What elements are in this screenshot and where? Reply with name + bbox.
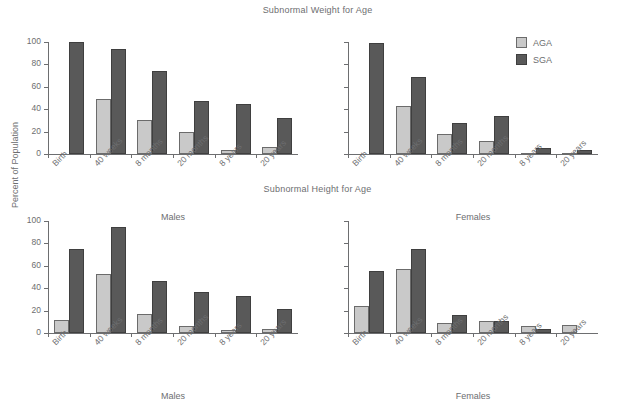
bar-sga — [69, 249, 84, 333]
x-axis-tick — [173, 333, 174, 337]
y-axis-tick — [344, 288, 348, 289]
x-axis-tick — [473, 333, 474, 337]
x-axis-tick — [215, 333, 216, 337]
y-axis-tick — [344, 243, 348, 244]
plot-area — [348, 42, 598, 154]
y-axis-tick — [44, 42, 48, 43]
y-axis-tick — [344, 109, 348, 110]
y-axis-tick — [344, 42, 348, 43]
x-axis-tick — [256, 154, 257, 158]
x-axis-tick — [215, 154, 216, 158]
x-axis-tick — [515, 333, 516, 337]
y-axis-label: Percent of Population — [10, 95, 20, 235]
x-axis-tick — [256, 333, 257, 337]
bar-sga — [69, 42, 84, 154]
y-axis-tick — [344, 221, 348, 222]
x-axis-tick — [90, 154, 91, 158]
x-axis-tick — [131, 154, 132, 158]
y-axis-tick — [44, 243, 48, 244]
x-axis-tick — [131, 333, 132, 337]
y-axis-tick — [44, 87, 48, 88]
y-axis-tick-label: 100 — [16, 36, 41, 46]
y-axis-tick — [44, 64, 48, 65]
x-axis-tick — [515, 154, 516, 158]
y-axis-tick-label: 60 — [16, 260, 41, 270]
y-axis-tick — [44, 311, 48, 312]
y-axis-tick-label: 20 — [16, 305, 41, 315]
y-axis-tick — [44, 132, 48, 133]
x-axis-tick — [556, 333, 557, 337]
x-axis-tick — [431, 154, 432, 158]
y-axis-tick-label: 20 — [16, 126, 41, 136]
y-axis-tick-label: 40 — [16, 103, 41, 113]
x-axis-label: Females — [348, 391, 598, 401]
y-axis-tick — [44, 266, 48, 267]
y-axis-tick — [344, 87, 348, 88]
x-axis-tick — [348, 154, 349, 158]
x-axis-tick — [390, 333, 391, 337]
x-axis-tick — [431, 333, 432, 337]
x-axis-tick — [473, 154, 474, 158]
y-axis-line — [48, 42, 49, 154]
bar-sga — [369, 43, 384, 154]
x-axis-tick — [173, 154, 174, 158]
panel-height-males: 020406080100Birth40 weeks8 months20 mont… — [48, 221, 298, 403]
panel-height-females: Birth40 weeks8 months20 months8 years20 … — [348, 221, 598, 403]
x-axis-label: Males — [48, 391, 298, 401]
x-axis-tick — [556, 154, 557, 158]
y-axis-tick-label: 80 — [16, 58, 41, 68]
y-axis-tick-label: 80 — [16, 237, 41, 247]
plot-area: 020406080100 — [48, 221, 298, 333]
x-axis-tick — [348, 333, 349, 337]
y-axis-line — [48, 221, 49, 333]
panel-weight-males: 020406080100Birth40 weeks8 months20 mont… — [48, 42, 298, 224]
y-axis-tick — [44, 288, 48, 289]
y-axis-line — [348, 221, 349, 333]
y-axis-tick-label: 60 — [16, 81, 41, 91]
panel-weight-females: Birth40 weeks8 months20 months8 years20 … — [348, 42, 598, 224]
y-axis-tick-label: 100 — [16, 215, 41, 225]
y-axis-tick-label: 0 — [16, 148, 41, 158]
y-axis-tick — [344, 311, 348, 312]
y-axis-tick — [44, 221, 48, 222]
x-axis-tick — [48, 333, 49, 337]
plot-area: 020406080100 — [48, 42, 298, 154]
y-axis-tick — [344, 266, 348, 267]
bar-sga — [369, 271, 384, 333]
y-axis-tick-label: 0 — [16, 327, 41, 337]
y-axis-tick — [44, 109, 48, 110]
x-axis-tick — [90, 333, 91, 337]
plot-area — [348, 221, 598, 333]
x-axis-tick — [48, 154, 49, 158]
y-axis-tick-label: 40 — [16, 282, 41, 292]
y-axis-line — [348, 42, 349, 154]
y-axis-tick — [344, 132, 348, 133]
y-axis-tick — [344, 64, 348, 65]
panel-title-weight: Subnormal Weight for Age — [0, 5, 635, 15]
x-axis-tick — [390, 154, 391, 158]
